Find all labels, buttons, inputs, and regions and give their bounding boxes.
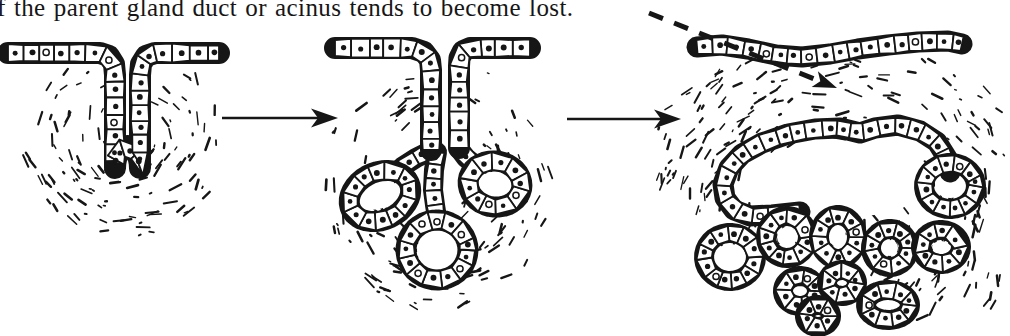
stage2-to-stage3-arrow-icon bbox=[567, 110, 681, 129]
stage-3-detached-gland-acinar-cluster bbox=[657, 33, 1005, 332]
stage-2-branching-gland-with-acini bbox=[326, 38, 552, 309]
stage1-to-stage2-arrow-icon bbox=[222, 109, 338, 128]
stage-1-simple-tubular-invagination bbox=[8, 44, 219, 236]
gland-development-diagram bbox=[0, 0, 1010, 336]
textbook-figure-page: f the parent gland duct or acinus tends … bbox=[0, 0, 1010, 336]
